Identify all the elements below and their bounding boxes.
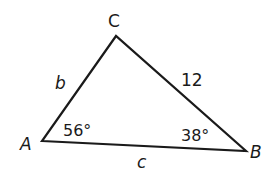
vertex-label-a: A <box>19 134 32 154</box>
side-label-b: b <box>55 73 66 93</box>
vertex-label-b: B <box>250 142 262 162</box>
angle-label-b: 38° <box>181 126 209 145</box>
triangle-diagram: C A B b 12 c 56° 38° <box>0 0 275 182</box>
side-label-a: 12 <box>181 70 203 90</box>
angle-label-a: 56° <box>63 121 91 140</box>
side-label-c: c <box>137 152 147 172</box>
vertex-label-c: C <box>108 11 120 31</box>
